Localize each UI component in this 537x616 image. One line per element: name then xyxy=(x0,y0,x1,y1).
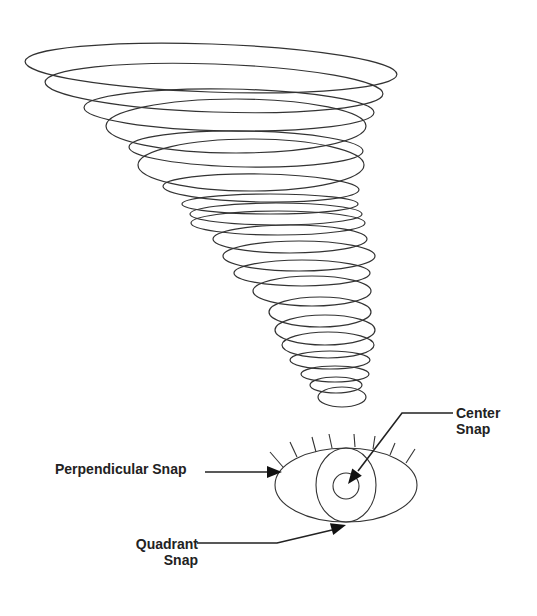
tornado-ellipse xyxy=(253,276,371,306)
quadrant-snap-line1: Quadrant xyxy=(126,536,198,552)
eye-outline-ellipse xyxy=(275,448,417,522)
tornado-ellipse xyxy=(318,387,366,407)
tornado-ellipse xyxy=(269,297,371,327)
eyelash xyxy=(354,434,355,447)
quadrant-snap-line2: Snap xyxy=(126,552,198,568)
eyelash xyxy=(329,434,332,448)
perpendicular-snap-text: Perpendicular Snap xyxy=(55,461,186,477)
tornado-ellipse xyxy=(213,225,367,253)
tornado-spiral xyxy=(24,38,397,407)
eyelash xyxy=(406,449,415,463)
center-snap-line2: Snap xyxy=(456,421,500,437)
center-snap-arrowhead-icon xyxy=(348,468,362,484)
eyelashes xyxy=(270,434,415,467)
tornado-ellipse xyxy=(191,211,365,235)
callout-leaders xyxy=(197,413,453,543)
tornado-ellipse xyxy=(138,139,364,191)
tornado-ellipse xyxy=(310,377,362,393)
quadrant-snap-label: Quadrant Snap xyxy=(126,536,198,568)
perpendicular-snap-label: Perpendicular Snap xyxy=(55,461,186,477)
center-snap-label: Center Snap xyxy=(456,405,500,437)
eye-drawing xyxy=(270,434,417,522)
center-snap-line1: Center xyxy=(456,405,500,421)
diagram-canvas xyxy=(0,0,537,616)
eyelash xyxy=(373,436,375,449)
tornado-ellipse xyxy=(44,58,383,118)
eyelash xyxy=(312,437,316,452)
tornado-ellipse xyxy=(275,315,375,345)
perpendicular-snap-arrowhead-icon xyxy=(267,466,282,478)
quadrant-snap-leader xyxy=(197,530,332,543)
center-snap-leader xyxy=(358,413,453,471)
tornado-ellipse xyxy=(223,241,375,271)
tornado-ellipse xyxy=(234,260,370,286)
eyelash xyxy=(390,443,395,455)
eyelash xyxy=(290,442,297,457)
quadrant-snap-arrowhead-icon xyxy=(330,523,346,535)
eyelash xyxy=(270,452,283,467)
tornado-ellipse xyxy=(84,86,375,133)
